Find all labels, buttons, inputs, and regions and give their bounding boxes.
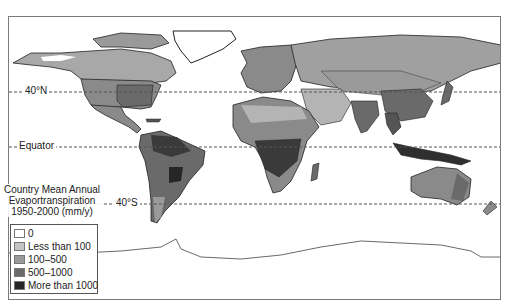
- legend-title-line-3: 1950-2000 (mm/y): [2, 206, 102, 217]
- legend: 0 Less than 100 100–500 500–1000 More th…: [10, 224, 98, 294]
- legend-item-500-1000: 500–1000: [14, 266, 94, 279]
- legend-title: Country Mean Annual Evaportranspiration …: [2, 184, 102, 217]
- latitude-label-equator: Equator: [17, 140, 56, 151]
- legend-label: More than 1000: [28, 280, 98, 291]
- legend-label: 100–500: [28, 254, 67, 265]
- legend-title-line-2: Evaportranspiration: [2, 195, 102, 206]
- legend-title-line-1: Country Mean Annual: [2, 184, 102, 195]
- legend-item-less-than-100: Less than 100: [14, 240, 94, 253]
- legend-item-100-500: 100–500: [14, 253, 94, 266]
- legend-label: 0: [28, 228, 34, 239]
- latitude-label-40n: 40°N: [23, 85, 49, 96]
- legend-swatch: [14, 229, 25, 238]
- legend-swatch: [14, 242, 25, 251]
- legend-swatch: [14, 281, 25, 290]
- legend-label: Less than 100: [28, 241, 91, 252]
- latitude-label-40s: 40°S: [114, 197, 140, 208]
- legend-swatch: [14, 255, 25, 264]
- legend-item-0: 0: [14, 227, 94, 240]
- legend-item-more-than-1000: More than 1000: [14, 279, 94, 292]
- legend-label: 500–1000: [28, 267, 73, 278]
- legend-swatch: [14, 268, 25, 277]
